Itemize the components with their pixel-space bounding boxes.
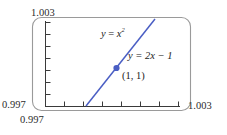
x-axis-ticks [65,102,179,107]
figure-container: 1.003 0.997 0.997 1.003 y = x2 y = 2x − … [0,0,227,135]
y-axis-max-label: 1.003 [31,8,55,19]
tangency-point-label: (1, 1) [122,71,145,82]
parabola-exponent: 2 [122,26,125,33]
y-axis-ticks [46,23,51,95]
parabola-equation-label: y = x2 [101,27,125,39]
x-axis-min-label: 0.997 [20,115,44,126]
y-axis-min-label: 0.997 [2,100,26,111]
x-axis-max-label: 1.003 [188,101,212,112]
tangent-equation-label: y = 2x − 1 [128,51,173,62]
tangency-point-marker [113,65,119,71]
